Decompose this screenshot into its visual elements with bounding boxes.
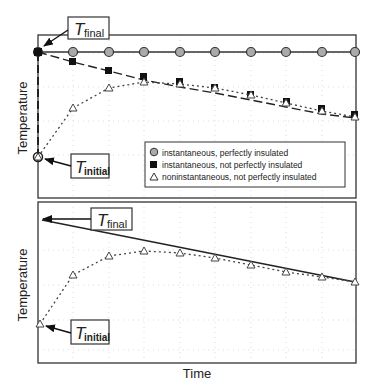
series-noninstantaneous-bottom (36, 247, 359, 327)
bottom-panel: T final T initial Temperature Time (15, 202, 359, 381)
y-axis-label-bottom: Temperature (15, 249, 30, 322)
series-instantaneous-perfectly-insulated (34, 48, 360, 57)
svg-text:instantaneous, perfectly insul: instantaneous, perfectly insulated (162, 148, 288, 158)
t-final-annotation-top: T final (44, 17, 109, 46)
top-panel: T final T initial instantaneous, perfect… (15, 17, 360, 198)
t-final-annotation-bottom: T final (43, 208, 132, 230)
chart-figure: T final T initial instantaneous, perfect… (0, 0, 375, 392)
svg-text:noninstantaneous, not perfectl: noninstantaneous, not perfectly insulate… (162, 172, 317, 182)
t-initial-annotation-bottom: T initial (46, 320, 110, 344)
svg-text:final: final (84, 27, 104, 39)
x-axis-label: Time (183, 366, 211, 381)
svg-text:initial: initial (84, 166, 110, 177)
svg-text:final: final (107, 218, 127, 230)
legend: instantaneous, perfectly insulated insta… (145, 142, 345, 187)
svg-text:instantaneous, not perfectly i: instantaneous, not perfectly insulated (162, 160, 303, 170)
t-initial-annotation-top: T initial (45, 154, 110, 178)
series-reference-line (42, 220, 355, 282)
y-axis-label-top: Temperature (15, 82, 30, 155)
series-instantaneous-not-insulated (34, 48, 358, 118)
svg-text:initial: initial (84, 332, 110, 343)
